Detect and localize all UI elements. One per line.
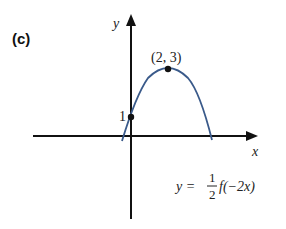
y-axis-label: y (111, 16, 120, 31)
max-point (165, 66, 171, 72)
curve (122, 68, 212, 141)
y-intercept-point (128, 114, 134, 120)
max-point-label: (2, 3) (151, 50, 182, 66)
equation-numerator: 1 (209, 170, 216, 185)
graph: (c) x y (2, 3) 1 y = 1 2 f(−2x) (0, 0, 286, 229)
equation-func: f(−2x) (219, 179, 255, 195)
x-axis-arrow-icon (246, 131, 258, 141)
equation: y = 1 2 f(−2x) (174, 170, 255, 202)
x-axis-label: x (251, 144, 259, 159)
equation-lhs: y = (174, 179, 195, 194)
equation-denominator: 2 (209, 187, 216, 202)
y-axis-arrow-icon (126, 14, 136, 26)
y-intercept-label: 1 (119, 109, 126, 124)
panel-label: (c) (12, 30, 30, 47)
